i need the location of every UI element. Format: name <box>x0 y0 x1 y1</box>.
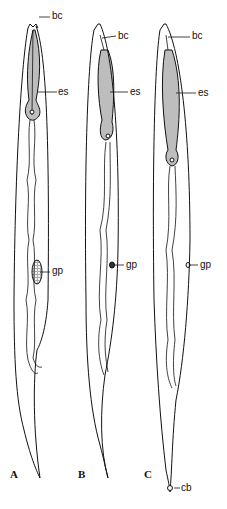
panel-label-c: C <box>144 468 152 480</box>
label-es-a: es <box>58 87 69 97</box>
label-bc-b: bc <box>118 31 129 41</box>
esophagus-c <box>162 50 179 166</box>
panel-label-a: A <box>10 468 18 480</box>
label-cb-c: cb <box>181 483 192 493</box>
nematode-c <box>153 24 198 492</box>
label-bc-c: bc <box>192 31 203 41</box>
caudal-bulb-c <box>168 486 173 491</box>
label-bc-a: bc <box>52 11 63 21</box>
genital-primordium-b <box>110 262 115 268</box>
esophagus-b <box>98 50 114 140</box>
panel-label-b: B <box>78 468 85 480</box>
label-es-b: es <box>130 87 141 97</box>
label-es-c: es <box>198 88 209 98</box>
label-gp-a: gp <box>52 266 63 276</box>
intestine-b <box>99 142 111 375</box>
nematode-a <box>14 17 57 478</box>
nematode-b <box>85 24 128 478</box>
intestine-c <box>166 166 176 388</box>
nematode-diagram <box>0 0 227 509</box>
label-gp-b: gp <box>126 260 137 270</box>
label-gp-c: gp <box>200 260 211 270</box>
intestine-a <box>26 120 42 373</box>
